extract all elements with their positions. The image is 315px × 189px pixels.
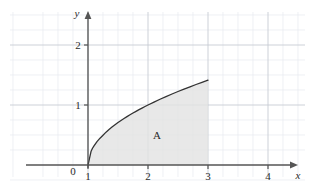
- x-tick-label-3: 3: [205, 170, 211, 182]
- x-tick-label-1: 1: [85, 170, 91, 182]
- coordinate-plot: 0 1 2 3 4 1 2 y x A: [0, 0, 315, 189]
- y-tick-label-1: 1: [75, 99, 81, 111]
- graph-figure: 0 1 2 3 4 1 2 y x A: [0, 0, 315, 189]
- y-axis-label: y: [74, 7, 80, 19]
- x-axis-label: x: [295, 169, 301, 181]
- origin-label: 0: [70, 165, 76, 177]
- region-a-label: A: [153, 129, 161, 141]
- x-axis-arrow-icon: [290, 162, 298, 169]
- x-tick-label-2: 2: [145, 170, 151, 182]
- x-tick-label-4: 4: [265, 170, 271, 182]
- y-tick-label-2: 2: [75, 39, 81, 51]
